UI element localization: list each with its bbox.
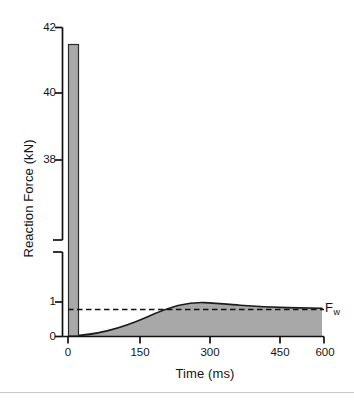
reaction-force-chart: Reaction Force (kN) Time (ms) 42 40 38 1… bbox=[0, 0, 354, 403]
impact-peak-bar bbox=[69, 45, 79, 337]
figure-bottom-rule bbox=[0, 392, 354, 393]
plot-canvas bbox=[0, 0, 354, 403]
